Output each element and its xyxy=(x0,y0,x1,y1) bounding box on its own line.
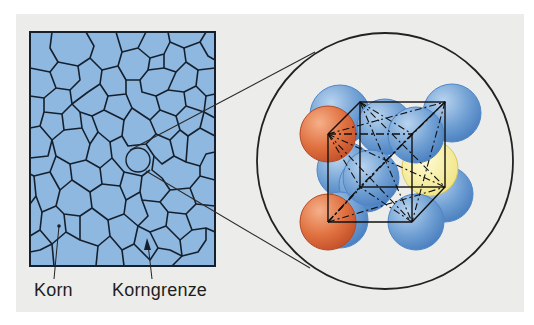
grain-structure-diagram xyxy=(0,0,534,325)
grain-pointer-dot xyxy=(57,224,61,228)
microstructure-square xyxy=(30,32,215,266)
grain-label: Korn xyxy=(34,280,73,301)
grain-boundary-label: Korngrenze xyxy=(112,280,207,301)
